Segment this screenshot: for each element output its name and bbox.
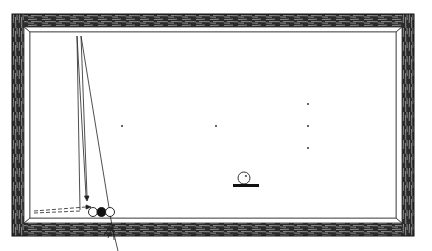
spot xyxy=(121,125,123,127)
spot xyxy=(307,103,309,105)
red-ball xyxy=(97,208,106,217)
billiard-table-diagram xyxy=(0,0,432,251)
spot xyxy=(307,125,309,127)
spot xyxy=(215,125,217,127)
spot-bar xyxy=(233,184,259,187)
white-ball-right xyxy=(106,208,115,217)
rail-left xyxy=(12,14,24,236)
white-ball-left xyxy=(89,208,98,217)
rail-top xyxy=(12,14,414,27)
rail-bottom xyxy=(12,223,414,236)
spot xyxy=(307,147,309,149)
spotted-ball-icon xyxy=(238,172,250,184)
balls xyxy=(89,208,115,217)
rail-right xyxy=(402,14,414,236)
